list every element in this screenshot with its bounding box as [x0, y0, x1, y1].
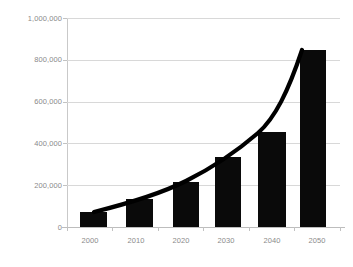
x-tick-mark-2: [158, 227, 159, 231]
x-tick-label-2010: 2010: [116, 236, 156, 245]
y-tick-label-800000: 800,000: [34, 55, 62, 64]
bar-2040: [258, 132, 286, 227]
x-tick-mark-start: [67, 227, 68, 231]
x-tick-mark-4: [249, 227, 250, 231]
bar-2020: [173, 182, 199, 227]
x-tick-mark-end: [340, 227, 341, 231]
plot-area: [67, 18, 340, 227]
y-tick-label-400000: 400,000: [34, 139, 62, 148]
x-tick-mark-3: [203, 227, 204, 231]
y-tick-label-600000: 600,000: [34, 97, 62, 106]
gridline-1000000: [67, 18, 340, 19]
bar-2050: [300, 50, 326, 227]
y-tick-label-1000000: 1,000,000: [28, 14, 62, 23]
chart-container: 1,000,000 800,000 600,000 400,000 200,00…: [0, 0, 353, 267]
x-tick-label-2050: 2050: [297, 236, 337, 245]
x-tick-label-2020: 2020: [161, 236, 201, 245]
x-tick-mark-5: [294, 227, 295, 231]
x-tick-label-2030: 2030: [206, 236, 246, 245]
y-tick-label-200000: 200,000: [34, 181, 62, 190]
bar-2030: [215, 157, 241, 227]
bar-2010: [126, 199, 153, 227]
bar-2000: [80, 212, 107, 227]
x-tick-mark-1: [112, 227, 113, 231]
y-axis-tick-labels: 1,000,000 800,000 600,000 400,000 200,00…: [0, 0, 62, 267]
x-tick-label-2000: 2000: [70, 236, 110, 245]
x-tick-label-2040: 2040: [252, 236, 292, 245]
